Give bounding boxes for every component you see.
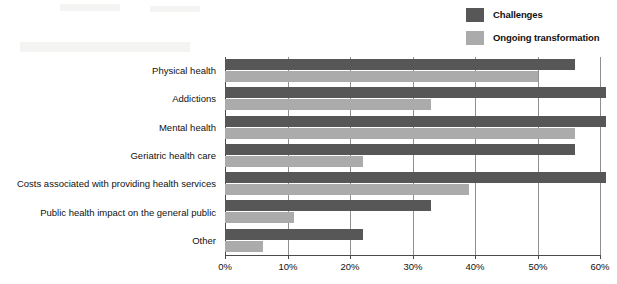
bar-ongoing-transformation [225, 184, 469, 195]
bar-group [225, 170, 600, 198]
bar-ongoing-transformation [225, 156, 363, 167]
bar-challenges [225, 229, 363, 240]
category-label: Addictions [172, 93, 216, 104]
bar-challenges [225, 200, 431, 211]
bar-group [225, 114, 600, 142]
bar-challenges [225, 116, 606, 127]
x-tick-label-30pct: 30% [403, 261, 422, 272]
x-tick-label-40pct: 40% [465, 261, 484, 272]
bar-group [225, 57, 600, 85]
bar-challenges [225, 172, 606, 183]
x-tick-label-50pct: 50% [528, 261, 547, 272]
x-tick-mark-20 [350, 255, 351, 259]
bar-challenges [225, 87, 606, 98]
category-axis-labels: Physical healthAddictionsMental healthGe… [0, 57, 225, 255]
x-tick-mark-10 [288, 255, 289, 259]
x-tick-label-60pct: 60% [590, 261, 609, 272]
bar-group [225, 198, 600, 226]
bar-ongoing-transformation [225, 99, 431, 110]
category-label: Other [192, 235, 216, 246]
category-label: Public health impact on the general publ… [40, 207, 216, 218]
bar-ongoing-transformation [225, 241, 263, 252]
x-tick-mark-60 [600, 255, 601, 259]
bar-challenges [225, 144, 575, 155]
bar-group [225, 142, 600, 170]
category-label: Geriatric health care [130, 150, 216, 161]
x-tick-label-0pct: 0% [218, 261, 232, 272]
category-label: Mental health [159, 122, 216, 133]
x-tick-mark-0 [225, 255, 226, 259]
category-label: Costs associated with providing health s… [17, 178, 216, 189]
plot-area [225, 57, 600, 255]
category-label: Physical health [152, 65, 216, 76]
x-tick-mark-50 [538, 255, 539, 259]
bar-ongoing-transformation [225, 128, 575, 139]
x-tick-label-10pct: 10% [278, 261, 297, 272]
bar-ongoing-transformation [225, 212, 294, 223]
horizontal-bar-chart: Physical healthAddictionsMental healthGe… [0, 0, 617, 284]
x-tick-mark-30 [413, 255, 414, 259]
bar-group [225, 85, 600, 113]
bar-challenges [225, 59, 575, 70]
x-tick-mark-40 [475, 255, 476, 259]
bar-ongoing-transformation [225, 71, 538, 82]
bar-group [225, 227, 600, 255]
x-tick-label-20pct: 20% [340, 261, 359, 272]
